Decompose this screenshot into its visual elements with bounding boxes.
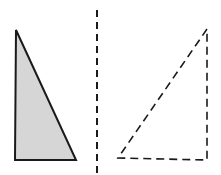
original-shaded-triangle [15,30,76,160]
reflected-dashed-triangle [118,29,207,160]
reflection-diagram [0,0,221,175]
